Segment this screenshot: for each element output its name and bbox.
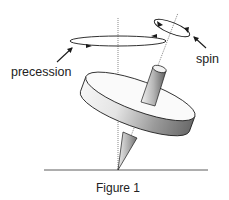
spinning-top-diagram: precession spin Figure 1 xyxy=(0,0,229,200)
spin-label: spin xyxy=(196,52,219,66)
figure-caption: Figure 1 xyxy=(96,181,140,195)
top-disc xyxy=(75,62,200,145)
spin-pointer-arrow-icon xyxy=(194,37,206,48)
precession-label: precession xyxy=(11,65,71,79)
spin-arrow-left-icon xyxy=(157,21,163,27)
diagram-canvas: precession spin Figure 1 xyxy=(0,0,229,200)
top-cone-tip xyxy=(118,132,137,170)
precession-pointer-arrow-icon xyxy=(57,48,72,62)
